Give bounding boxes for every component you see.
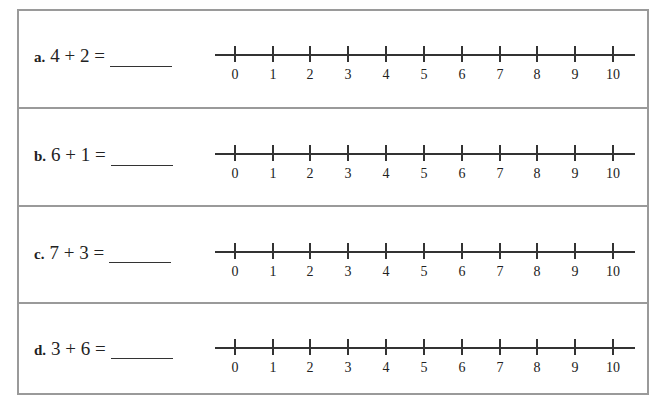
tick-label: 5 bbox=[421, 264, 428, 280]
problem-equation: b.6 + 1 = bbox=[34, 144, 173, 166]
tick-mark bbox=[347, 46, 349, 62]
tick-label: 7 bbox=[497, 67, 504, 83]
problem-expression: 4 + 2 = bbox=[50, 45, 105, 66]
tick-mark bbox=[309, 243, 311, 259]
problem-letter: c. bbox=[34, 246, 44, 262]
tick-mark bbox=[499, 145, 501, 161]
tick-label: 6 bbox=[459, 166, 466, 182]
tick-mark bbox=[461, 339, 463, 355]
problem-expression: 7 + 3 = bbox=[49, 242, 104, 263]
tick-mark bbox=[272, 145, 274, 161]
tick-label: 2 bbox=[307, 264, 314, 280]
tick-label: 4 bbox=[383, 166, 390, 182]
tick-mark bbox=[309, 339, 311, 355]
tick-label: 0 bbox=[232, 360, 239, 376]
tick-mark bbox=[347, 339, 349, 355]
tick-label: 5 bbox=[421, 67, 428, 83]
tick-mark bbox=[234, 339, 236, 355]
tick-label: 7 bbox=[497, 264, 504, 280]
tick-label: 6 bbox=[459, 360, 466, 376]
tick-label: 8 bbox=[534, 67, 541, 83]
worksheet: a.4 + 2 =012345678910b.6 + 1 =0123456789… bbox=[17, 9, 649, 395]
answer-blank[interactable] bbox=[111, 357, 173, 359]
tick-label: 1 bbox=[270, 166, 277, 182]
tick-mark bbox=[423, 243, 425, 259]
tick-label: 1 bbox=[270, 67, 277, 83]
tick-mark bbox=[612, 46, 614, 62]
answer-blank[interactable] bbox=[111, 164, 173, 166]
tick-label: 3 bbox=[345, 264, 352, 280]
tick-mark bbox=[536, 46, 538, 62]
problem-equation: a.4 + 2 = bbox=[34, 45, 172, 67]
tick-label: 9 bbox=[572, 166, 579, 182]
problem-row: c.7 + 3 =012345678910 bbox=[19, 205, 647, 302]
problem-letter: a. bbox=[34, 49, 45, 65]
tick-label: 8 bbox=[534, 166, 541, 182]
tick-label: 5 bbox=[421, 360, 428, 376]
tick-mark bbox=[574, 243, 576, 259]
tick-mark bbox=[347, 145, 349, 161]
tick-label: 1 bbox=[270, 360, 277, 376]
tick-label: 1 bbox=[270, 264, 277, 280]
tick-mark bbox=[385, 46, 387, 62]
tick-label: 10 bbox=[606, 67, 620, 83]
tick-mark bbox=[234, 145, 236, 161]
tick-label: 9 bbox=[572, 67, 579, 83]
number-line-axis bbox=[215, 347, 635, 349]
tick-mark bbox=[612, 243, 614, 259]
problem-letter: d. bbox=[34, 342, 46, 358]
number-line: 012345678910 bbox=[215, 334, 635, 380]
problem-equation: c.7 + 3 = bbox=[34, 242, 171, 264]
tick-mark bbox=[234, 243, 236, 259]
tick-label: 7 bbox=[497, 166, 504, 182]
tick-mark bbox=[309, 145, 311, 161]
tick-label: 2 bbox=[307, 360, 314, 376]
tick-label: 9 bbox=[572, 264, 579, 280]
number-line: 012345678910 bbox=[215, 140, 635, 186]
problem-expression: 6 + 1 = bbox=[51, 144, 106, 165]
tick-label: 8 bbox=[534, 360, 541, 376]
tick-mark bbox=[309, 46, 311, 62]
tick-mark bbox=[423, 145, 425, 161]
tick-mark bbox=[574, 145, 576, 161]
tick-mark bbox=[272, 243, 274, 259]
tick-mark bbox=[461, 243, 463, 259]
tick-mark bbox=[574, 339, 576, 355]
tick-label: 0 bbox=[232, 67, 239, 83]
tick-label: 0 bbox=[232, 166, 239, 182]
answer-blank[interactable] bbox=[110, 65, 172, 67]
tick-mark bbox=[461, 46, 463, 62]
tick-label: 4 bbox=[383, 67, 390, 83]
tick-mark bbox=[536, 339, 538, 355]
tick-label: 9 bbox=[572, 360, 579, 376]
number-line: 012345678910 bbox=[215, 238, 635, 284]
tick-mark bbox=[461, 145, 463, 161]
tick-label: 3 bbox=[345, 166, 352, 182]
problem-expression: 3 + 6 = bbox=[51, 338, 106, 359]
tick-label: 6 bbox=[459, 67, 466, 83]
tick-mark bbox=[574, 46, 576, 62]
tick-mark bbox=[423, 46, 425, 62]
tick-label: 7 bbox=[497, 360, 504, 376]
tick-mark bbox=[385, 339, 387, 355]
number-line-axis bbox=[215, 54, 635, 56]
tick-label: 3 bbox=[345, 360, 352, 376]
tick-label: 10 bbox=[606, 360, 620, 376]
answer-blank[interactable] bbox=[109, 261, 171, 263]
problem-letter: b. bbox=[34, 148, 46, 164]
tick-mark bbox=[499, 46, 501, 62]
problem-row: a.4 + 2 =012345678910 bbox=[19, 11, 647, 107]
number-line: 012345678910 bbox=[215, 41, 635, 87]
tick-label: 2 bbox=[307, 166, 314, 182]
tick-mark bbox=[423, 339, 425, 355]
number-line-axis bbox=[215, 251, 635, 253]
tick-mark bbox=[385, 243, 387, 259]
tick-mark bbox=[536, 243, 538, 259]
problem-row: b.6 + 1 =012345678910 bbox=[19, 107, 647, 205]
problem-equation: d.3 + 6 = bbox=[34, 338, 173, 360]
tick-label: 4 bbox=[383, 360, 390, 376]
tick-mark bbox=[272, 46, 274, 62]
tick-mark bbox=[499, 243, 501, 259]
tick-label: 2 bbox=[307, 67, 314, 83]
tick-label: 3 bbox=[345, 67, 352, 83]
